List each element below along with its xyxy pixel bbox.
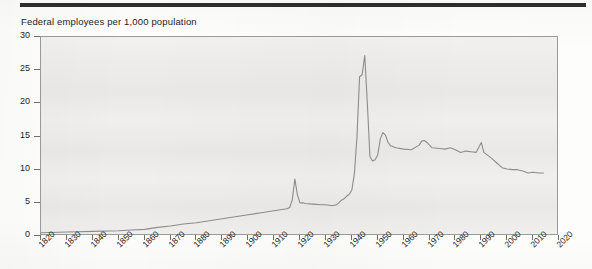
y-axis-tick-mark <box>34 69 40 70</box>
y-axis-tick-label: 25 <box>4 64 30 73</box>
y-axis-tick-mark <box>34 202 40 203</box>
series-polyline <box>41 56 543 233</box>
plot-area <box>40 36 558 235</box>
y-axis-tick-mark <box>34 36 40 37</box>
y-axis-tick-mark <box>34 136 40 137</box>
y-axis-tick-label: 5 <box>4 197 30 206</box>
y-axis-tick-mark <box>34 169 40 170</box>
y-axis-tick-label: 10 <box>4 164 30 173</box>
y-axis-tick-mark <box>34 102 40 103</box>
y-axis-tick-label: 30 <box>4 31 30 40</box>
y-axis-tick-label: 15 <box>4 131 30 140</box>
chart-title: Federal employees per 1,000 population <box>21 16 197 27</box>
top-divider-rule <box>20 3 586 7</box>
data-line-series <box>41 37 559 236</box>
y-axis-tick-label: 0 <box>4 230 30 239</box>
y-axis-tick-label: 20 <box>4 97 30 106</box>
